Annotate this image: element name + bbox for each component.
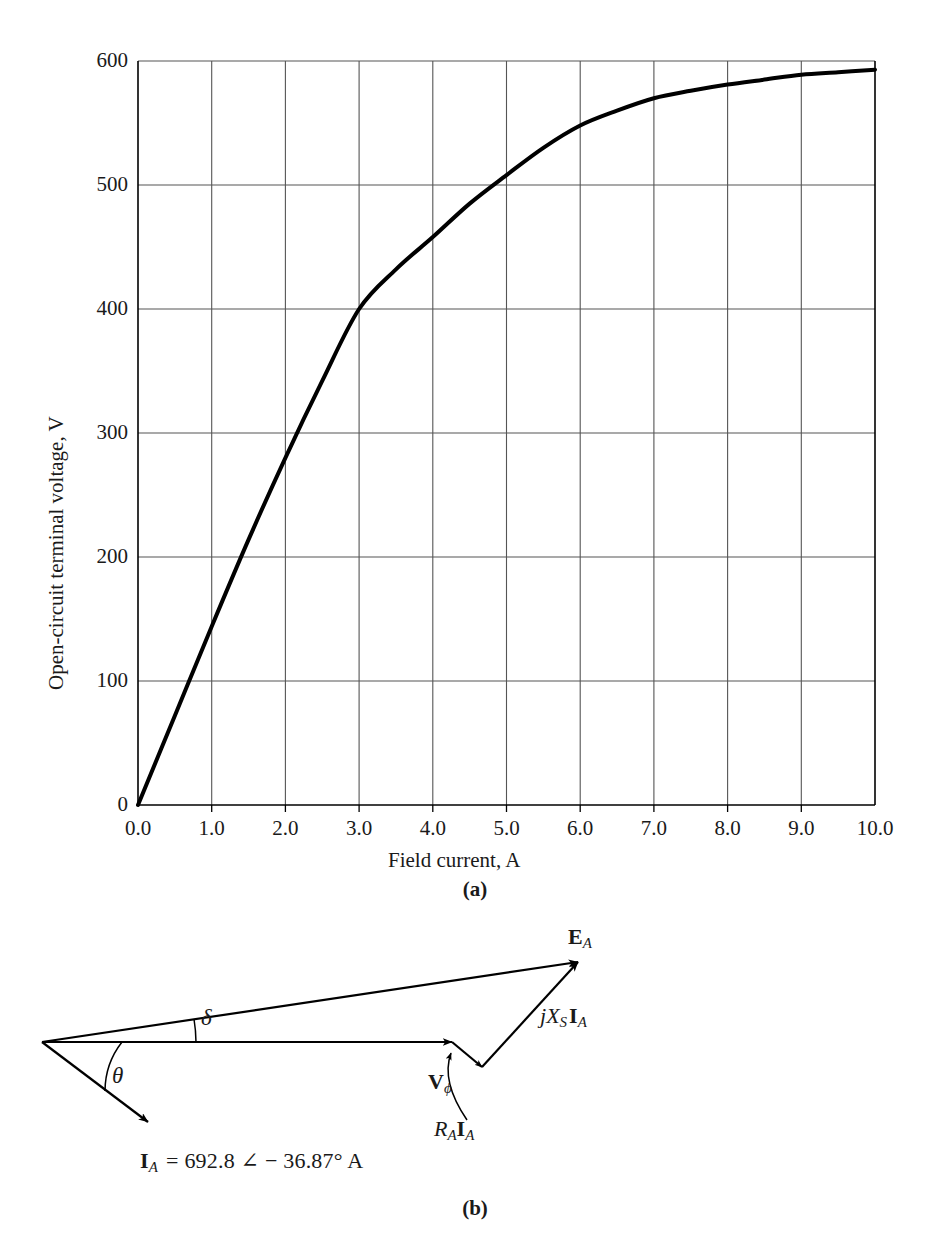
figure-page: 600 500 400 300 200 100 0 0.0 1.0 2.0 3.…	[0, 0, 938, 1247]
label-ea-main: E	[568, 924, 583, 949]
equation-i-sub: A	[149, 1159, 158, 1175]
x-axis-ticks	[212, 805, 802, 812]
label-vphi: Vϕ	[428, 1069, 452, 1097]
x-tick-3: 3.0	[324, 816, 394, 841]
y-axis-title: Open-circuit terminal voltage, V	[44, 416, 69, 690]
x-tick-6: 6.0	[545, 816, 615, 841]
phasor-ia	[42, 1042, 148, 1122]
label-raia-i: I	[457, 1116, 466, 1141]
panel-b-caption: (b)	[435, 1196, 515, 1221]
phasor-diagram	[42, 962, 578, 1122]
x-tick-9: 9.0	[766, 816, 836, 841]
y-tick-200: 200	[68, 544, 128, 569]
label-raia-r: R	[434, 1116, 447, 1141]
y-tick-500: 500	[68, 172, 128, 197]
x-tick-2: 2.0	[250, 816, 320, 841]
x-tick-5: 5.0	[472, 816, 542, 841]
x-tick-8: 8.0	[693, 816, 763, 841]
label-ea: EA	[568, 924, 592, 952]
x-tick-1: 1.0	[177, 816, 247, 841]
label-raia-i-sub: A	[465, 1127, 474, 1143]
current-phasor-equation: IA= 692.8 ∠ − 36.87° A	[140, 1148, 363, 1176]
phasor-raia	[452, 1042, 482, 1067]
label-raia: RAIA	[434, 1116, 474, 1144]
label-ea-sub: A	[583, 935, 592, 951]
y-tick-0: 0	[68, 792, 128, 817]
label-jxsia-x: X	[546, 1003, 559, 1028]
chart-canvas	[0, 0, 938, 1247]
label-delta: δ	[201, 1005, 212, 1031]
y-tick-400: 400	[68, 296, 128, 321]
x-tick-7: 7.0	[619, 816, 689, 841]
panel-a-caption: (a)	[435, 877, 515, 902]
label-vphi-main: V	[428, 1069, 444, 1094]
label-theta: θ	[112, 1063, 123, 1089]
label-jxsia-x-sub: S	[560, 1014, 567, 1030]
x-axis-title: Field current, A	[388, 848, 520, 873]
equation-rest: = 692.8 ∠ − 36.87° A	[166, 1148, 363, 1173]
equation-i: I	[140, 1148, 149, 1173]
label-raia-r-sub: A	[447, 1127, 456, 1143]
x-tick-10: 10.0	[840, 816, 910, 841]
label-jxsia: jXSIA	[540, 1003, 587, 1031]
y-tick-100: 100	[68, 668, 128, 693]
delta-angle-arc	[194, 1019, 196, 1042]
y-tick-300: 300	[68, 420, 128, 445]
label-vphi-sub: ϕ	[444, 1080, 452, 1096]
x-tick-0: 0.0	[103, 816, 173, 841]
y-tick-600: 600	[68, 48, 128, 73]
x-tick-4: 4.0	[398, 816, 468, 841]
label-jxsia-i-sub: A	[578, 1014, 587, 1030]
label-jxsia-i: I	[569, 1003, 578, 1028]
phasor-ea	[42, 962, 578, 1042]
